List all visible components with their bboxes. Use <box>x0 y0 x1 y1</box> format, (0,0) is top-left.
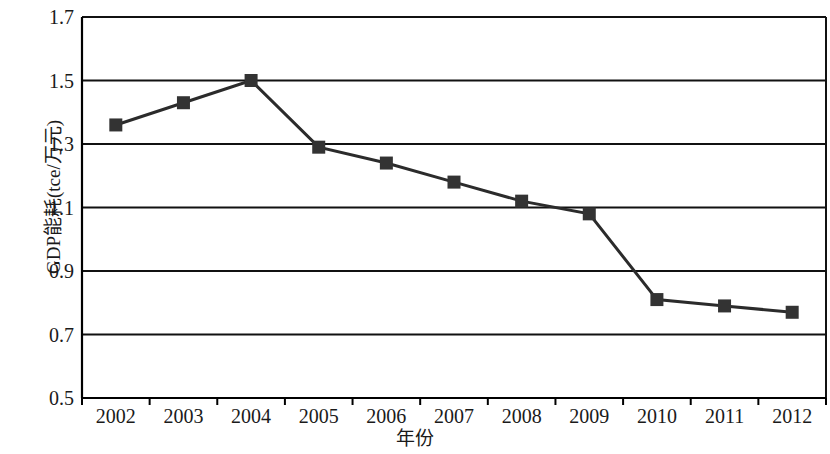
x-tick-label: 2012 <box>747 405 830 427</box>
x-axis-title-text: 年份 <box>396 428 434 449</box>
line-chart: GDP能耗(tce/万元) 1.71.51.31.10.90.70.5 2002… <box>0 0 830 454</box>
x-axis-tick-labels: 2002200320042005200620072008200920102011… <box>0 0 830 454</box>
x-axis-title: 年份 <box>0 428 830 450</box>
